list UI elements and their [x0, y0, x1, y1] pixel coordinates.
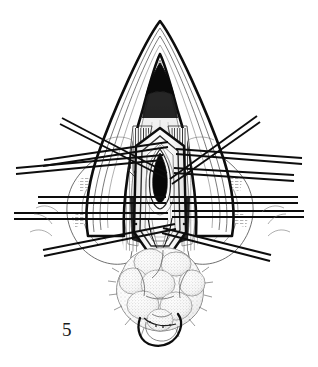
figure-panel: 5 [0, 0, 318, 367]
anatomical-line-drawing [0, 0, 318, 367]
figure-number-label: 5 [62, 320, 72, 339]
